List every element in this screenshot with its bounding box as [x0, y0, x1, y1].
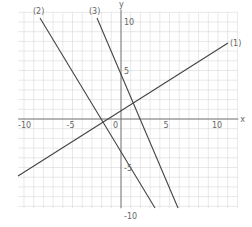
line-label-2: (2): [33, 7, 44, 16]
coordinate-graph: xy0-10-5510105-5-10(1)(2)(3): [0, 0, 252, 227]
svg-text:5: 5: [124, 67, 129, 76]
tick-labels: xy0-10-5510105-5-10(1)(2)(3): [18, 0, 245, 221]
line-label-3: (3): [89, 7, 100, 16]
axes: [18, 9, 238, 208]
line-label-1: (1): [230, 39, 241, 48]
svg-text:-5: -5: [67, 121, 75, 130]
svg-text:10: 10: [212, 121, 222, 130]
svg-text:-5: -5: [124, 164, 132, 173]
svg-text:5: 5: [164, 121, 169, 130]
svg-text:-10: -10: [124, 212, 137, 221]
graph-lines: [18, 18, 228, 208]
svg-text:y: y: [119, 0, 124, 9]
svg-text:-10: -10: [18, 121, 31, 130]
svg-text:0: 0: [113, 121, 118, 130]
svg-text:x: x: [240, 115, 245, 124]
grid: [18, 12, 237, 208]
svg-text:10: 10: [124, 18, 134, 27]
